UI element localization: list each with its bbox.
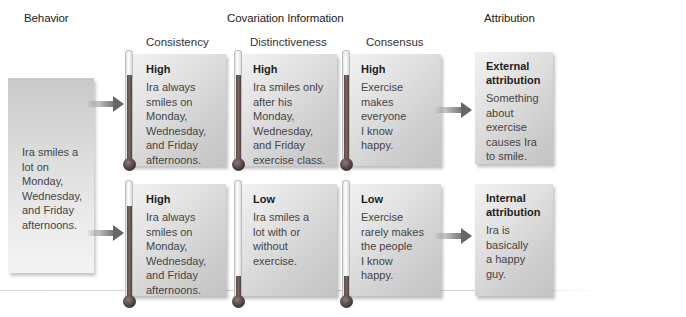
covariation-information-header: Covariation Information: [227, 12, 344, 24]
arrow-to-internal-attribution: [436, 230, 472, 242]
row2-consistency-card: High Ira always smiles on Monday, Wednes…: [130, 184, 226, 296]
text-line: and Friday: [146, 268, 206, 283]
arrow-to-external-attribution: [436, 104, 472, 116]
attribution-description: Something about exercise causes Ira to s…: [486, 91, 540, 164]
text-line: exercise: [486, 120, 540, 135]
text-line: afternoons.: [22, 218, 82, 233]
arrow-behavior-to-row1: [88, 98, 124, 110]
row2-consensus-card: Low Exercise rarely makes the people I k…: [347, 184, 441, 296]
text-line: to smile.: [486, 149, 540, 164]
text-line: Monday,: [146, 109, 206, 124]
external-attribution-card: External attribution Something about exe…: [475, 52, 553, 164]
text-line: Monday,: [22, 174, 82, 189]
attribution-title: External attribution: [486, 59, 540, 87]
text-line: attribution: [486, 205, 540, 219]
behavior-box: Ira smiles a lot on Monday, Wednesday, a…: [8, 78, 94, 273]
row1-consensus-card: High Exercise makes everyone I know happ…: [347, 54, 441, 166]
internal-attribution-card: Internal attribution Ira is basically a …: [475, 184, 553, 296]
text-line: Ira always: [146, 210, 206, 225]
text-line: Wednesday,: [146, 254, 206, 269]
text-line: Ira always: [146, 80, 206, 95]
text-line: External: [486, 59, 540, 73]
text-line: about: [486, 106, 540, 121]
text-line: without: [253, 239, 309, 254]
text-line: and Friday: [146, 138, 206, 153]
arrow-head-icon: [113, 225, 124, 241]
text-line: Ira smiles a: [253, 210, 309, 225]
consensus-description: Exercise rarely makes the people I know …: [361, 210, 424, 283]
thermometer-icon: [125, 180, 133, 304]
text-line: afternoons.: [146, 283, 206, 298]
text-line: basically: [486, 238, 540, 253]
thermometer-icon: [342, 180, 350, 304]
text-line: a happy: [486, 252, 540, 267]
text-line: Wednesday,: [22, 189, 82, 204]
text-line: happy.: [361, 138, 406, 153]
distinctiveness-level: High: [253, 62, 325, 76]
distinctiveness-description: Ira smiles a lot with or without exercis…: [253, 210, 309, 268]
text-line: Something: [486, 91, 540, 106]
row1-distinctiveness-card: High Ira smiles only after his Monday, W…: [239, 54, 337, 166]
thermometer-icon: [125, 50, 133, 167]
text-line: smiles on: [146, 225, 206, 240]
text-line: Internal: [486, 191, 540, 205]
consensus-level: Low: [361, 192, 424, 206]
text-line: guy.: [486, 267, 540, 282]
consensus-description: Exercise makes everyone I know happy.: [361, 80, 406, 153]
text-line: after his: [253, 95, 325, 110]
arrow-head-icon: [461, 102, 472, 118]
text-line: Ira is: [486, 223, 540, 238]
distinctiveness-level: Low: [253, 192, 309, 206]
distinctiveness-column-label: Distinctiveness: [250, 36, 327, 48]
text-line: Monday,: [146, 239, 206, 254]
thermometer-icon: [234, 50, 242, 167]
text-line: lot on: [22, 160, 82, 175]
text-line: Exercise: [361, 210, 424, 225]
thermometer-icon: [234, 180, 242, 304]
text-line: I know: [361, 254, 424, 269]
text-line: everyone: [361, 109, 406, 124]
consensus-column-label: Consensus: [366, 36, 424, 48]
attribution-description: Ira is basically a happy guy.: [486, 223, 540, 281]
arrow-head-icon: [461, 228, 472, 244]
consistency-description: Ira always smiles on Monday, Wednesday, …: [146, 210, 206, 297]
text-line: Wednesday,: [146, 124, 206, 139]
text-line: exercise.: [253, 254, 309, 269]
attribution-title: Internal attribution: [486, 191, 540, 219]
text-line: and Friday: [22, 203, 82, 218]
text-line: happy.: [361, 268, 424, 283]
distinctiveness-description: Ira smiles only after his Monday, Wednes…: [253, 80, 325, 167]
row2-distinctiveness-card: Low Ira smiles a lot with or without exe…: [239, 184, 337, 296]
row1-consistency-card: High Ira always smiles on Monday, Wednes…: [130, 54, 226, 166]
text-line: Monday,: [253, 109, 325, 124]
text-line: Wednesday,: [253, 124, 325, 139]
text-line: I know: [361, 124, 406, 139]
consensus-level: High: [361, 62, 406, 76]
behavior-text: Ira smiles a lot on Monday, Wednesday, a…: [22, 145, 82, 232]
text-line: and Friday: [253, 138, 325, 153]
arrow-behavior-to-row2: [88, 227, 124, 239]
text-line: afternoons.: [146, 153, 206, 168]
text-line: Ira smiles a: [22, 145, 82, 160]
text-line: causes Ira: [486, 135, 540, 150]
consistency-level: High: [146, 192, 206, 206]
text-line: Ira smiles only: [253, 80, 325, 95]
consistency-level: High: [146, 62, 206, 76]
text-line: smiles on: [146, 95, 206, 110]
text-line: Exercise: [361, 80, 406, 95]
attribution-header: Attribution: [484, 12, 535, 24]
text-line: makes: [361, 95, 406, 110]
thermometer-icon: [342, 50, 350, 167]
consistency-description: Ira always smiles on Monday, Wednesday, …: [146, 80, 206, 167]
behavior-header: Behavior: [24, 12, 69, 24]
text-line: rarely makes: [361, 225, 424, 240]
text-line: lot with or: [253, 225, 309, 240]
text-line: the people: [361, 239, 424, 254]
text-line: exercise class.: [253, 153, 325, 168]
arrow-head-icon: [113, 96, 124, 112]
consistency-column-label: Consistency: [146, 36, 209, 48]
text-line: attribution: [486, 73, 540, 87]
